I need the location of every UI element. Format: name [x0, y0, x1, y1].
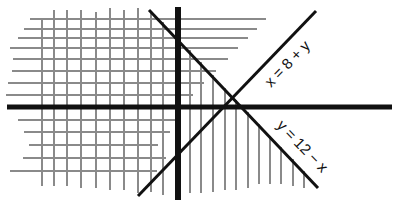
label-x-eq-8-plus-y: x = 8 + y: [261, 37, 314, 91]
horizontal-hatching: [6, 19, 266, 171]
inequality-region-diagram: x = 8 + y y = 12 − x: [0, 0, 397, 217]
label-y-eq-12-minus-x: y = 12 − x: [274, 116, 332, 176]
